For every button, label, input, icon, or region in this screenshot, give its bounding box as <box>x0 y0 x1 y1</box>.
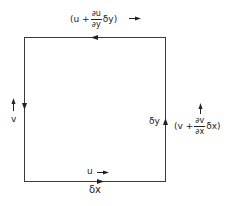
top-edge-arrow-icon <box>91 35 98 40</box>
fluid-element-diagram <box>0 0 238 206</box>
top-flow-fraction: ∂u∂y <box>91 10 102 29</box>
right-flow-frac-num: ∂v <box>194 117 205 127</box>
left-flow-arrow-icon <box>12 98 16 104</box>
right-flow-tail: δx) <box>206 121 220 131</box>
top-flow-arrow-icon <box>135 17 141 21</box>
right-flow-arrow-icon <box>199 103 203 109</box>
bottom-flow-arrow-icon <box>103 171 109 175</box>
right-flow-fraction: ∂v∂x <box>194 117 205 136</box>
top-flow-frac-num: ∂u <box>91 10 102 20</box>
right-flow-label: (v +∂v∂xδx) <box>174 117 220 136</box>
top-flow-tail: δy) <box>103 14 117 24</box>
side-width-label: δx <box>89 185 101 195</box>
left-edge-arrow-icon <box>22 103 27 110</box>
fluid-element-square <box>25 38 166 182</box>
bottom-flow-label: u <box>87 167 93 176</box>
right-edge-arrow-icon <box>163 118 168 125</box>
right-flow-frac-den: ∂x <box>195 127 204 136</box>
left-flow-label: v <box>11 115 16 124</box>
top-flow-label: (u +∂u∂yδy) <box>70 10 117 29</box>
top-flow-open: (u + <box>70 14 90 24</box>
right-flow-open: (v + <box>174 121 193 131</box>
top-flow-frac-den: ∂y <box>92 20 101 29</box>
side-height-label: δy <box>149 117 160 126</box>
